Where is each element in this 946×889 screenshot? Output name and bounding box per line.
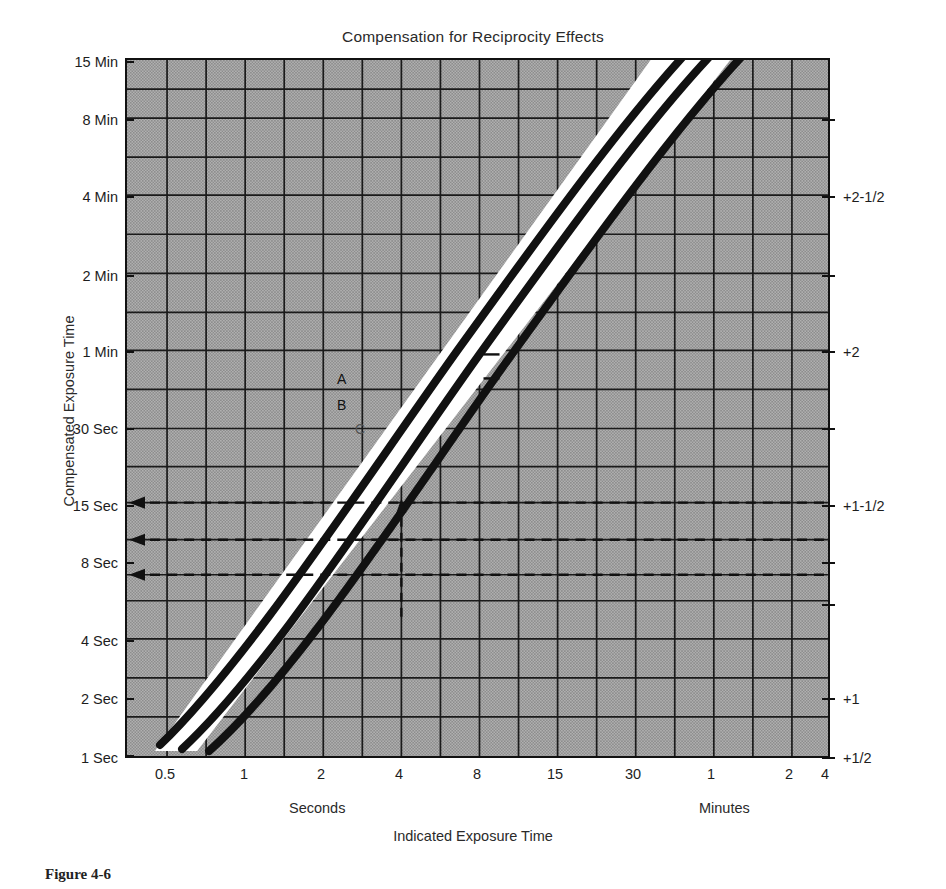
x-axis-unit-seconds: Seconds <box>289 800 345 816</box>
chart-title: Compensation for Reciprocity Effects <box>0 28 946 46</box>
x-tick-2s: 2 <box>317 766 325 782</box>
x-axis-unit-minutes: Minutes <box>699 800 750 816</box>
x-tick-30s: 30 <box>625 766 641 782</box>
y-axis-labels: 15 Min 8 Min 4 Min 2 Min 1 Min 30 Sec 15… <box>0 58 118 758</box>
y-tick-15sec: 15 Sec <box>73 498 118 514</box>
x-tick-8s: 8 <box>473 766 481 782</box>
figure-caption: Figure 4-6 <box>45 866 111 883</box>
y-tick-2min: 2 Min <box>83 268 118 284</box>
right-tick-plus1: +1 <box>843 691 860 707</box>
y-tick-8sec: 8 Sec <box>81 555 118 571</box>
figure-reciprocity-chart: Compensation for Reciprocity Effects <box>0 0 946 889</box>
x-tick-1m: 1 <box>707 766 715 782</box>
x-tick-4m: 4 <box>821 766 829 782</box>
x-tick-4s: 4 <box>395 766 403 782</box>
y-tick-1min: 1 Min <box>83 344 118 360</box>
x-axis-title: Indicated Exposure Time <box>0 828 946 844</box>
y-tick-4min: 4 Min <box>83 189 118 205</box>
y-axis-title: Compensated Exposure Time <box>61 246 77 576</box>
right-tick-plus2half: +2-1/2 <box>843 189 885 205</box>
x-tick-2m: 2 <box>785 766 793 782</box>
plot-area: A B C <box>125 58 830 758</box>
curve-label-a: A <box>337 372 346 386</box>
right-tick-plushalf: +1/2 <box>843 750 872 766</box>
y-tick-4sec: 4 Sec <box>81 633 118 649</box>
plot-canvas <box>127 60 828 756</box>
y-tick-1sec: 1 Sec <box>81 750 118 766</box>
y-axis-tickmarks <box>125 58 145 758</box>
x-axis-labels: 0.5 1 2 4 8 15 30 1 2 4 <box>125 766 830 792</box>
y-tick-2sec: 2 Sec <box>81 691 118 707</box>
curve-label-c: C <box>355 422 365 436</box>
x-tick-0p5s: 0.5 <box>155 766 175 782</box>
x-tick-15s: 15 <box>547 766 563 782</box>
y-tick-15min: 15 Min <box>74 54 118 70</box>
right-tick-plus1half: +1-1/2 <box>843 498 885 514</box>
curve-label-b: B <box>337 398 346 412</box>
right-tick-plus2: +2 <box>843 344 860 360</box>
x-tick-1s: 1 <box>240 766 248 782</box>
y-tick-8min: 8 Min <box>83 112 118 128</box>
right-axis-tickmarks <box>815 58 835 758</box>
y-tick-30sec: 30 Sec <box>73 421 118 437</box>
right-axis-labels: +2-1/2 +2 +1-1/2 +1 +1/2 <box>843 58 943 758</box>
